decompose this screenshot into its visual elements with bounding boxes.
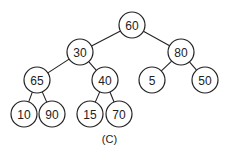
tree-node: 40: [92, 67, 118, 93]
tree-edge: [29, 92, 33, 102]
tree-edge: [95, 92, 100, 102]
node-label: 80: [174, 46, 188, 60]
tree-edge: [89, 62, 97, 71]
tree-node: 10: [11, 101, 37, 127]
tree-edge: [48, 59, 69, 73]
node-label: 30: [73, 46, 87, 60]
tree-node: 5: [139, 67, 165, 93]
tree-edge: [161, 61, 171, 71]
tree-edge: [110, 92, 114, 102]
tree-node: 70: [106, 101, 132, 127]
node-label: 40: [98, 74, 112, 88]
tree-edge: [189, 62, 196, 70]
node-label: 15: [83, 108, 97, 122]
node-label: 60: [125, 19, 139, 33]
tree-diagram: 603080654055010901570: [0, 0, 231, 153]
tree-node: 50: [192, 67, 218, 93]
tree-edge: [92, 31, 121, 46]
node-label: 5: [149, 74, 156, 88]
node-label: 70: [112, 108, 126, 122]
tree-edge: [143, 31, 169, 45]
tree-edge: [42, 92, 47, 102]
edges: [29, 31, 197, 102]
tree-node: 80: [168, 39, 194, 65]
tree-node: 60: [119, 12, 145, 38]
tree-node: 30: [67, 39, 93, 65]
node-label: 50: [198, 74, 212, 88]
nodes: 603080654055010901570: [11, 12, 218, 127]
tree-node: 65: [24, 67, 50, 93]
node-label: 65: [30, 74, 44, 88]
figure-caption: (C): [0, 133, 225, 145]
tree-node: 90: [39, 101, 65, 127]
node-label: 90: [45, 108, 59, 122]
node-label: 10: [17, 108, 31, 122]
tree-node: 15: [77, 101, 103, 127]
